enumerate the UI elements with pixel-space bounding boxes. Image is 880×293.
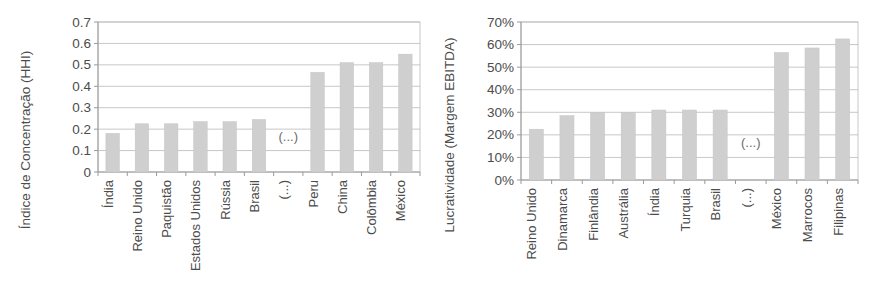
bar-m-xico[interactable] [399,54,412,172]
bar-paquist-o[interactable] [164,124,177,172]
x-category-label: Rússia [218,179,233,220]
x-category-label: Reino Unido [524,188,539,260]
y-tick-label: 50% [487,60,514,75]
y-tick-label: 0.4 [72,79,91,94]
x-category-label: Filipinas [831,188,846,236]
y-tick-label: 20% [487,127,514,142]
x-category-label: Paquistão [159,180,174,238]
y-tick-label: 0.1 [72,143,91,158]
bar-estados-unidos[interactable] [194,122,207,172]
x-category-label: México [393,180,408,221]
bar-china[interactable] [340,63,353,172]
x-category-label: Colômbia [364,179,379,235]
concentration-bar-chart: Índice de Concentração (HHI)00.10.20.30.… [0,0,440,293]
y-tick-label: 60% [487,37,514,52]
x-category-label: Austrália [616,187,631,238]
x-category-label: Brasil [247,180,262,213]
y-axis-title: Lucratividade (Margem EBITDA) [442,37,457,232]
bar-finl-ndia[interactable] [591,112,605,180]
profitability-bar-chart: Lucratividade (Margem EBITDA)0%10%20%30%… [440,0,880,293]
y-tick-label: 0.6 [72,36,91,51]
x-category-label: Reino Unido [130,180,145,252]
chart-panel-concentration: Índice de Concentração (HHI)00.10.20.30.… [0,0,440,293]
x-category-label: China [335,179,350,214]
y-tick-label: 30% [487,105,514,120]
x-category-label: (...) [739,188,754,208]
bar-turquia[interactable] [682,110,696,180]
x-category-label: Turquia [678,187,693,231]
y-tick-label: 0% [494,173,514,188]
x-category-label: Marrocos [800,188,815,243]
bar-brasil[interactable] [252,120,265,173]
bar-peru[interactable] [311,72,324,172]
x-category-label: (...) [276,180,291,200]
y-tick-label: 0.3 [72,100,91,115]
bar-r-ssia[interactable] [223,122,236,172]
bar-marrocos[interactable] [805,48,819,180]
x-category-label: Peru [306,180,321,207]
bar-reino-unido[interactable] [529,129,543,180]
y-tick-label: 10% [487,150,514,165]
bar-dinamarca[interactable] [560,116,574,180]
y-tick-label: 0 [83,165,91,180]
bar--ndia[interactable] [652,110,666,180]
bar-col-mbia[interactable] [369,63,382,172]
bar-m-xico[interactable] [774,52,788,180]
y-tick-label: 0.2 [72,122,91,137]
bar-filipinas[interactable] [836,39,850,180]
y-tick-label: 0.5 [72,57,91,72]
x-category-label: Finlândia [586,187,601,241]
x-category-label: Dinamarca [555,187,570,251]
x-category-label: Índia [647,187,662,216]
y-tick-label: 40% [487,82,514,97]
bar--ndia[interactable] [106,133,119,172]
x-category-label: Índia [101,179,116,208]
bar-reino-unido[interactable] [135,124,148,172]
x-category-label: México [769,188,784,229]
x-category-label: Brasil [708,188,723,221]
chart-panel-profitability: Lucratividade (Margem EBITDA)0%10%20%30%… [440,0,880,293]
y-axis-title: Índice de Concentração (HHI) [18,51,33,230]
figure-container: Índice de Concentração (HHI)00.10.20.30.… [0,0,880,293]
plot-break-marker: (...) [279,129,299,144]
bar-austr-lia[interactable] [621,112,635,180]
y-tick-label: 0.7 [72,15,91,30]
bar-brasil[interactable] [713,110,727,180]
y-tick-label: 70% [487,15,514,30]
plot-break-marker: (...) [741,135,761,150]
x-category-label: Estados Unidos [188,180,203,272]
